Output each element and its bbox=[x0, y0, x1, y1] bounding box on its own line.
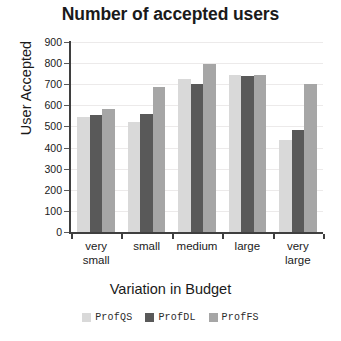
x-category-label-line: large bbox=[218, 240, 276, 254]
bar-proffs-very-large[interactable] bbox=[304, 84, 317, 232]
legend-item-profdl[interactable]: ProfDL bbox=[145, 312, 195, 323]
legend-item-profqs[interactable]: ProfQS bbox=[82, 312, 132, 323]
x-category-label-line: medium bbox=[168, 240, 226, 254]
bar-profqs-medium[interactable] bbox=[178, 79, 191, 232]
bar-chart: Number of accepted users User Accepted 9… bbox=[0, 0, 341, 341]
y-tick-label: 700 bbox=[20, 79, 62, 89]
y-tick-label: 800 bbox=[20, 58, 62, 68]
y-tick-label: 900 bbox=[20, 37, 62, 47]
x-category-label-line: very bbox=[67, 240, 125, 254]
x-category-label-line: small bbox=[67, 254, 125, 268]
bar-profdl-very-small[interactable] bbox=[90, 115, 103, 232]
bar-group bbox=[222, 42, 272, 232]
bar-profqs-large[interactable] bbox=[229, 75, 242, 232]
plot-area bbox=[71, 42, 323, 232]
legend-label: ProfDL bbox=[158, 312, 195, 323]
chart-title: Number of accepted users bbox=[0, 4, 341, 25]
x-category-label: medium bbox=[168, 240, 226, 254]
y-tick-label: 100 bbox=[20, 206, 62, 216]
x-axis-line bbox=[69, 232, 323, 234]
bar-profdl-large[interactable] bbox=[241, 76, 254, 232]
bar-proffs-very-small[interactable] bbox=[102, 109, 115, 233]
y-tick-label: 0 bbox=[20, 227, 62, 237]
y-tick-label: 300 bbox=[20, 164, 62, 174]
legend-swatch-icon bbox=[145, 313, 154, 322]
bar-proffs-medium[interactable] bbox=[203, 64, 216, 232]
bar-profqs-very-small[interactable] bbox=[77, 117, 90, 232]
bar-group bbox=[273, 42, 323, 232]
x-tick-mark bbox=[222, 234, 224, 239]
bar-group bbox=[121, 42, 171, 232]
y-tick-label: 600 bbox=[20, 100, 62, 110]
x-category-label: verylarge bbox=[269, 240, 327, 267]
x-tick-mark bbox=[121, 234, 123, 239]
y-tick-label: 500 bbox=[20, 121, 62, 131]
x-category-label: small bbox=[118, 240, 176, 254]
x-category-label-line: small bbox=[118, 240, 176, 254]
x-category-label-line: large bbox=[269, 254, 327, 268]
bar-group bbox=[71, 42, 121, 232]
x-tick-mark bbox=[273, 234, 275, 239]
bar-profdl-very-large[interactable] bbox=[292, 130, 305, 232]
bar-group bbox=[172, 42, 222, 232]
y-tick-label: 200 bbox=[20, 185, 62, 195]
legend-swatch-icon bbox=[82, 313, 91, 322]
y-tick-label: 400 bbox=[20, 143, 62, 153]
bar-proffs-large[interactable] bbox=[254, 75, 267, 232]
bar-profqs-very-large[interactable] bbox=[279, 140, 292, 232]
legend-label: ProfFS bbox=[222, 312, 259, 323]
x-axis-title: Variation in Budget bbox=[0, 281, 341, 297]
x-category-label: verysmall bbox=[67, 240, 125, 267]
x-tick-mark bbox=[323, 234, 325, 239]
bar-profdl-medium[interactable] bbox=[191, 84, 204, 232]
chart-legend: ProfQSProfDLProfFS bbox=[0, 312, 341, 323]
legend-label: ProfQS bbox=[95, 312, 132, 323]
legend-item-proffs[interactable]: ProfFS bbox=[209, 312, 259, 323]
bar-profdl-small[interactable] bbox=[140, 114, 153, 232]
x-category-label-line: very bbox=[269, 240, 327, 254]
bar-profqs-small[interactable] bbox=[128, 122, 141, 232]
x-category-label: large bbox=[218, 240, 276, 254]
x-tick-mark bbox=[71, 234, 73, 239]
legend-swatch-icon bbox=[209, 313, 218, 322]
bar-proffs-small[interactable] bbox=[153, 87, 166, 232]
x-tick-mark bbox=[172, 234, 174, 239]
